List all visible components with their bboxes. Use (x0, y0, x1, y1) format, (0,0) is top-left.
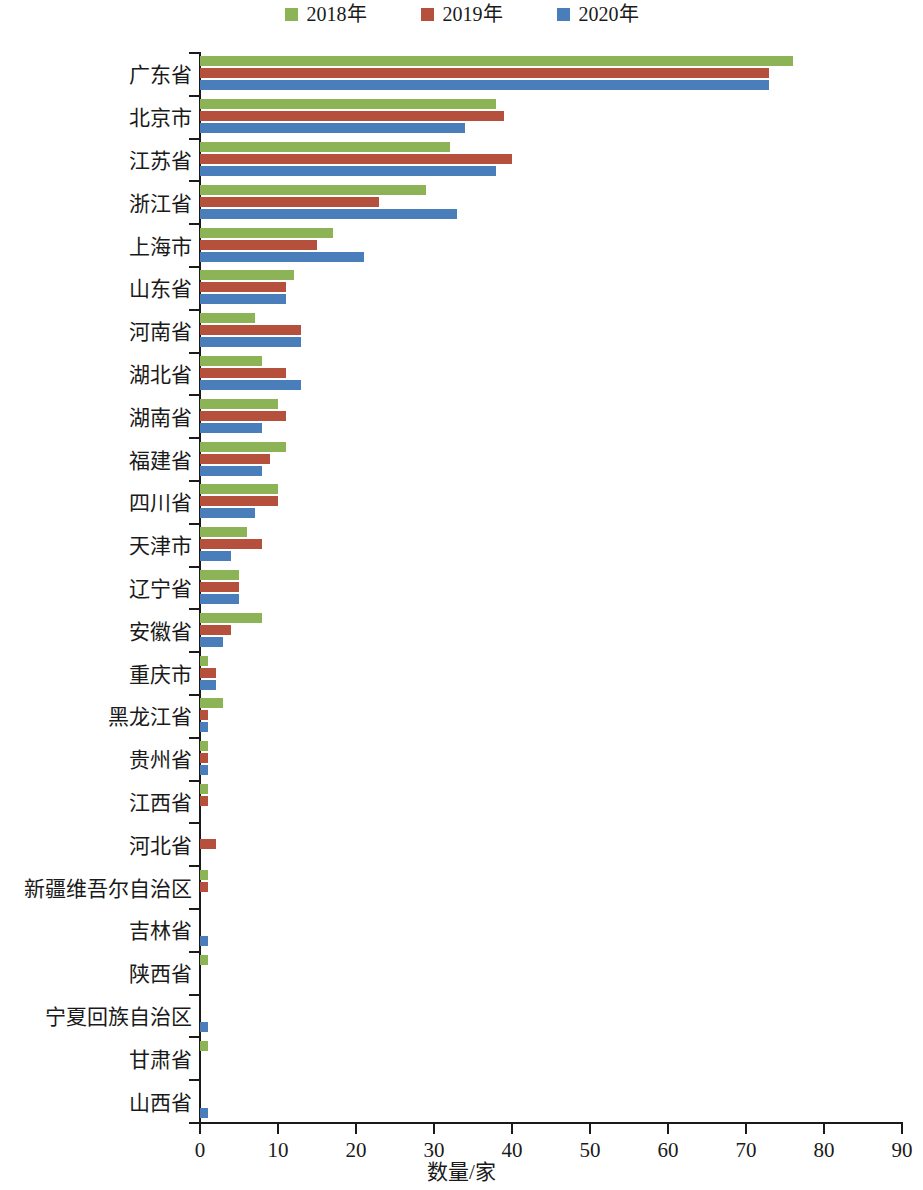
bar-2020年-上海市 (200, 252, 364, 262)
bar-2020年-宁夏回族自治区 (200, 1022, 208, 1032)
legend-swatch-icon (421, 8, 434, 21)
bar-2018年-北京市 (200, 99, 496, 109)
bar-2020年-黑龙江省 (200, 722, 208, 732)
bar-2019年-辽宁省 (200, 582, 239, 592)
x-axis-tick (277, 1124, 279, 1134)
bar-2020年-北京市 (200, 123, 465, 133)
bar-2018年-湖北省 (200, 356, 262, 366)
x-axis-tick (433, 1124, 435, 1134)
legend-swatch-icon (557, 8, 570, 21)
bar-2018年-广东省 (200, 56, 793, 66)
y-axis-tick (189, 1079, 200, 1081)
legend-item: 2019年 (421, 4, 503, 24)
bar-2019年-湖南省 (200, 411, 286, 421)
y-axis-tick (189, 437, 200, 439)
bar-2019年-广东省 (200, 68, 769, 78)
bar-2020年-山西省 (200, 1108, 208, 1118)
x-axis-tick (823, 1124, 825, 1134)
bar-2019年-上海市 (200, 240, 317, 250)
bar-2018年-天津市 (200, 527, 247, 537)
category-label: 广东省 (129, 58, 192, 88)
y-axis-tick (189, 138, 200, 140)
bar-2020年-湖北省 (200, 380, 301, 390)
x-axis-tick (589, 1124, 591, 1134)
x-axis-tick (511, 1124, 513, 1134)
y-axis-tick (189, 523, 200, 525)
bar-2020年-四川省 (200, 508, 255, 518)
x-axis-tick (355, 1124, 357, 1134)
y-axis-tick (189, 309, 200, 311)
bar-2019年-新疆维吾尔自治区 (200, 882, 208, 892)
y-axis-tick (189, 694, 200, 696)
category-label: 辽宁省 (129, 572, 192, 602)
y-axis-tick (189, 908, 200, 910)
bar-2018年-山东省 (200, 270, 294, 280)
bar-2019年-湖北省 (200, 368, 286, 378)
bar-2019年-江西省 (200, 796, 208, 806)
x-axis-tick (199, 1124, 201, 1134)
y-axis-tick (189, 394, 200, 396)
x-axis-line (199, 1122, 903, 1124)
legend-label: 2019年 (443, 4, 503, 24)
bar-2020年-重庆市 (200, 680, 216, 690)
category-label: 河南省 (129, 315, 192, 345)
category-label: 黑龙江省 (108, 700, 192, 730)
y-axis-tick (189, 266, 200, 268)
category-label: 湖北省 (129, 358, 192, 388)
bar-2019年-山东省 (200, 282, 286, 292)
bar-2019年-贵州省 (200, 753, 208, 763)
bar-chart: 2018年2019年2020年 广东省北京市江苏省浙江省上海市山东省河南省湖北省… (0, 0, 923, 1190)
bar-2020年-天津市 (200, 551, 231, 561)
legend-swatch-icon (285, 8, 298, 21)
category-label: 山西省 (129, 1086, 192, 1116)
bar-2019年-河北省 (200, 839, 216, 849)
bar-2018年-湖南省 (200, 399, 278, 409)
category-label: 四川省 (129, 486, 192, 516)
bar-2018年-江西省 (200, 784, 208, 794)
category-label: 宁夏回族自治区 (45, 1000, 192, 1030)
bar-2019年-浙江省 (200, 197, 379, 207)
bar-2018年-辽宁省 (200, 570, 239, 580)
y-axis-tick (189, 95, 200, 97)
category-label: 吉林省 (129, 914, 192, 944)
plot-area: 0102030405060708090 (200, 52, 902, 1122)
bar-2020年-河南省 (200, 337, 301, 347)
y-axis-tick (189, 1122, 200, 1124)
bar-2019年-安徽省 (200, 625, 231, 635)
y-axis-tick (189, 352, 200, 354)
bar-2018年-贵州省 (200, 741, 208, 751)
bar-2020年-山东省 (200, 294, 286, 304)
bar-2018年-新疆维吾尔自治区 (200, 870, 208, 880)
category-axis-labels: 广东省北京市江苏省浙江省上海市山东省河南省湖北省湖南省福建省四川省天津市辽宁省安… (0, 52, 192, 1122)
y-axis-tick (189, 865, 200, 867)
y-axis-tick (189, 651, 200, 653)
bar-2019年-天津市 (200, 539, 262, 549)
bar-2018年-河南省 (200, 313, 255, 323)
bar-2020年-贵州省 (200, 765, 208, 775)
bar-2019年-河南省 (200, 325, 301, 335)
bar-2018年-黑龙江省 (200, 698, 223, 708)
legend-label: 2020年 (579, 4, 639, 24)
y-axis-tick (189, 951, 200, 953)
bar-2020年-广东省 (200, 80, 769, 90)
y-axis-tick (189, 180, 200, 182)
category-label: 安徽省 (129, 615, 192, 645)
chart-legend: 2018年2019年2020年 (0, 4, 923, 24)
bar-2020年-安徽省 (200, 637, 223, 647)
category-label: 江西省 (129, 786, 192, 816)
bar-2018年-上海市 (200, 228, 333, 238)
bar-2020年-福建省 (200, 466, 262, 476)
y-axis-tick (189, 480, 200, 482)
bar-2019年-黑龙江省 (200, 710, 208, 720)
bar-2020年-吉林省 (200, 936, 208, 946)
bar-2019年-四川省 (200, 496, 278, 506)
bar-2020年-辽宁省 (200, 594, 239, 604)
bar-2020年-浙江省 (200, 209, 457, 219)
category-label: 福建省 (129, 444, 192, 474)
bar-2020年-江苏省 (200, 166, 496, 176)
category-label: 江苏省 (129, 144, 192, 174)
bar-2019年-重庆市 (200, 668, 216, 678)
bar-2018年-重庆市 (200, 656, 208, 666)
y-axis-tick (189, 822, 200, 824)
category-label: 陕西省 (129, 957, 192, 987)
